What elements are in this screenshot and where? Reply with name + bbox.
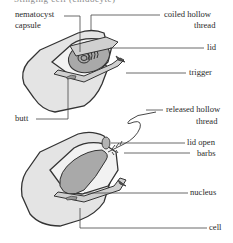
label-nucleus: nucleus <box>190 188 216 197</box>
label-butt: butt <box>15 114 28 123</box>
released-thread-icon <box>124 112 156 144</box>
label-barbs: barbs <box>197 149 216 158</box>
label-nematocyst: nematocyst <box>15 10 54 19</box>
label-coiled-thread: thread <box>194 21 215 30</box>
lid-open-icon <box>102 137 110 149</box>
label-coiled-hollow: coiled hollow <box>164 10 211 19</box>
label-capsule: capsule <box>15 21 41 30</box>
label-lid: lid <box>207 43 216 52</box>
label-cell: cell <box>209 223 221 232</box>
label-released-thread: thread <box>196 117 217 126</box>
label-released-hollow: released hollow <box>166 105 220 114</box>
label-lid-open: lid open <box>187 138 215 147</box>
bottom-cell <box>22 112 157 226</box>
label-trigger: trigger <box>189 68 212 77</box>
top-cell <box>23 31 125 113</box>
cnidocyte-diagram: Stinging cell (cnidocyte) <box>0 0 233 243</box>
